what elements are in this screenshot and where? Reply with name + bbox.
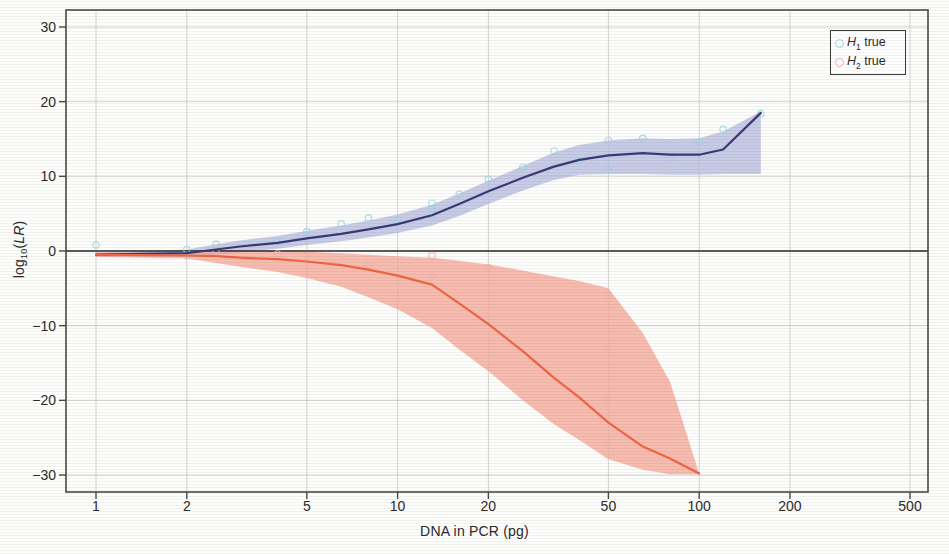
legend-item: H2 true: [835, 53, 901, 72]
x-tick-label: 100: [679, 498, 719, 514]
y-axis-title: log10(LR): [11, 189, 30, 309]
y-axis-title-base: log: [11, 259, 27, 278]
x-tick-label: 1: [76, 498, 116, 514]
y-tick-label: −10: [16, 318, 56, 334]
legend-label-tail: true: [861, 54, 886, 68]
y-tick-label: −30: [16, 467, 56, 483]
x-axis-title: DNA in PCR (pg): [0, 523, 949, 539]
legend-marker-circle-icon: [835, 39, 844, 48]
x-tick-label: 500: [890, 498, 930, 514]
legend-label-tail: true: [861, 35, 886, 49]
legend-item: H1 true: [835, 34, 901, 53]
y-tick-label: 30: [16, 19, 56, 35]
x-tick-label: 10: [378, 498, 418, 514]
legend-label-hypothesis: H: [847, 54, 856, 68]
y-axis-title-paren-open: (: [11, 244, 27, 249]
y-tick-label: 10: [16, 168, 56, 184]
figure-log10-lr-vs-dna: 125102050100200500 3020100−10−20−30 DNA …: [0, 0, 949, 554]
x-tick-label: 5: [287, 498, 327, 514]
plot-canvas: [0, 0, 949, 554]
x-tick-label: 50: [588, 498, 628, 514]
x-tick-label: 2: [167, 498, 207, 514]
legend: H1 trueH2 true: [830, 30, 906, 75]
y-tick-label: 20: [16, 94, 56, 110]
y-axis-title-sub: 10: [19, 249, 29, 259]
legend-item-label: H1 true: [847, 35, 886, 52]
y-axis-title-italic: LR: [11, 225, 27, 243]
legend-marker-circle-icon: [835, 58, 844, 67]
x-tick-label: 20: [468, 498, 508, 514]
y-axis-title-paren-close: ): [11, 221, 27, 226]
x-tick-label: 200: [770, 498, 810, 514]
legend-item-label: H2 true: [847, 54, 886, 71]
y-tick-label: −20: [16, 392, 56, 408]
confidence-bands: [96, 111, 761, 474]
legend-label-hypothesis: H: [847, 35, 856, 49]
